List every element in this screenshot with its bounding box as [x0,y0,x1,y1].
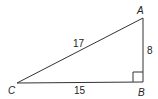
right-angle-marker [133,72,143,82]
vertex-label-a: A [136,5,144,16]
side-label-ac: 17 [73,38,85,49]
side-label-ab: 8 [147,45,153,56]
side-label-bc: 15 [74,85,86,96]
triangle-abc [17,18,143,83]
vertex-label-c: C [8,85,16,96]
vertex-label-b: B [138,87,145,98]
triangle-diagram: A B C 17 8 15 [0,0,158,99]
